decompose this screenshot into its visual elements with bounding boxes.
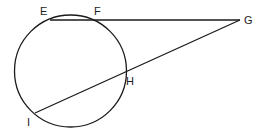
label-i: I — [27, 117, 30, 128]
geometry-diagram — [0, 0, 266, 135]
label-h: H — [126, 76, 134, 87]
secant-ig — [35, 20, 240, 113]
circle — [15, 15, 127, 127]
label-e: E — [40, 6, 47, 17]
label-f: F — [94, 6, 101, 17]
label-g: G — [244, 15, 253, 26]
